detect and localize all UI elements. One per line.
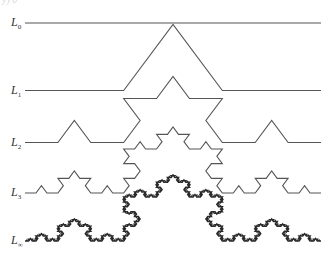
koch-curve-Linf [25,175,321,241]
koch-curve-diagram [0,0,333,258]
koch-curve-L3 [25,127,321,193]
koch-curve-L1 [25,25,321,91]
koch-curve-L2 [25,77,321,143]
